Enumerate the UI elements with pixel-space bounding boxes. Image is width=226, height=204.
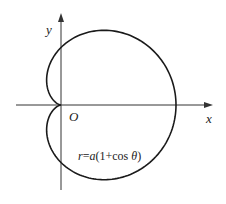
equation-close: ) bbox=[137, 149, 141, 163]
cardioid-plot bbox=[0, 0, 226, 204]
x-axis-arrow-icon bbox=[204, 102, 213, 108]
x-axis-label: x bbox=[206, 112, 212, 125]
equation-body: (1+cos bbox=[95, 149, 131, 163]
y-axis-label: y bbox=[46, 23, 52, 36]
y-axis-arrow-icon bbox=[58, 13, 64, 22]
origin-label: O bbox=[69, 110, 78, 123]
equation-label: r=a(1+cos θ) bbox=[78, 150, 141, 162]
